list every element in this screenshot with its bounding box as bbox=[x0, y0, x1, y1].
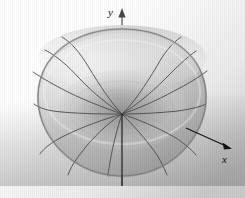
surface-plot-svg: y x bbox=[0, 0, 245, 198]
x-axis-label: x bbox=[221, 153, 227, 165]
y-axis-label: y bbox=[107, 6, 113, 18]
surface-plot-figure: y x bbox=[0, 0, 245, 198]
